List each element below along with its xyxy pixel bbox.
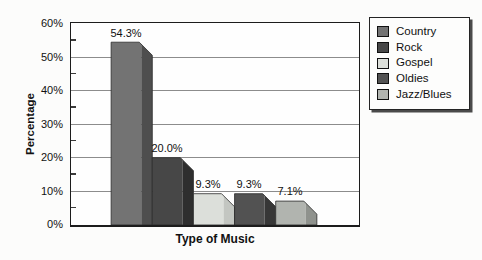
y-tick-label: 20% [3, 150, 63, 164]
bar-country [111, 42, 152, 225]
legend-swatch [377, 89, 389, 100]
bar-value-label: 54.3% [105, 27, 147, 40]
bar-oldies [235, 194, 276, 225]
y-tick-label: 50% [3, 50, 63, 64]
bar-rock [152, 158, 193, 225]
legend-label: Jazz/Blues [396, 89, 452, 101]
legend-swatch [377, 42, 389, 53]
bar-value-label: 9.3% [228, 178, 270, 191]
legend-label: Gospel [396, 57, 432, 69]
x-axis-title: Type of Music [70, 232, 360, 246]
plot-area: 54.3%20.0%9.3%9.3%7.1% [70, 22, 360, 227]
y-tick-label: 60% [3, 16, 63, 30]
legend-swatch [377, 58, 389, 69]
y-axis-ticks: 60%50%40%30%20%10%0% [0, 23, 66, 228]
bar-gospel [193, 194, 234, 225]
bar-jazz-blues [276, 201, 317, 225]
bars-layer [71, 23, 359, 225]
bar-value-label: 9.3% [187, 178, 229, 191]
bar-value-label: 20.0% [146, 142, 188, 155]
y-tick-label: 40% [3, 83, 63, 97]
legend-label: Oldies [396, 73, 429, 85]
legend-label: Rock [396, 42, 422, 54]
legend-entry-country: Country [377, 26, 469, 38]
legend-entry-jazz-blues: Jazz/Blues [377, 89, 469, 101]
legend-entry-rock: Rock [377, 42, 469, 54]
y-tick-label: 30% [3, 117, 63, 131]
legend-swatch [377, 26, 389, 37]
legend-swatch [377, 73, 389, 84]
legend-entry-gospel: Gospel [377, 57, 469, 69]
legend-label: Country [396, 26, 436, 38]
bar-value-label: 7.1% [269, 185, 311, 198]
bar-chart-figure: Percentage 60%50%40%30%20%10%0% 54.3%20.… [0, 0, 482, 260]
legend: CountryRockGospelOldiesJazz/Blues [369, 17, 470, 110]
y-tick-label: 0% [3, 217, 63, 231]
legend-entry-oldies: Oldies [377, 73, 469, 85]
y-tick-label: 10% [3, 184, 63, 198]
